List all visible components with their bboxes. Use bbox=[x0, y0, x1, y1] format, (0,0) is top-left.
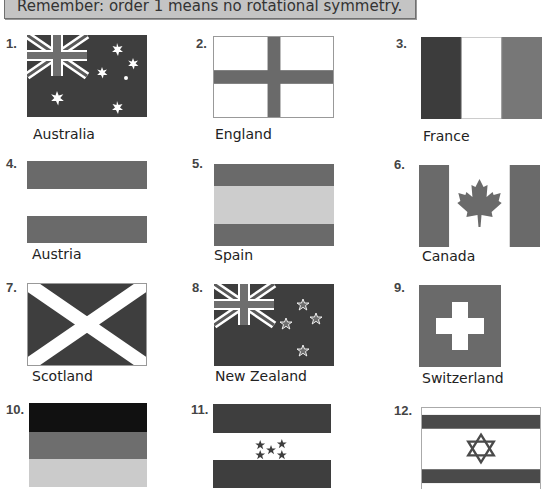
flag-label: Scotland bbox=[32, 368, 93, 384]
australia-flag bbox=[27, 35, 147, 117]
item-number: 11. bbox=[191, 402, 208, 417]
germany-flag bbox=[29, 403, 147, 487]
item-number: 3. bbox=[396, 36, 407, 51]
item-number: 6. bbox=[394, 157, 405, 172]
austria-flag bbox=[27, 161, 147, 243]
item-number: 8. bbox=[192, 280, 203, 295]
flag-label: Canada bbox=[422, 248, 475, 264]
item-number: 2. bbox=[196, 36, 207, 51]
item-number: 9. bbox=[394, 280, 405, 295]
switzerland-flag bbox=[419, 285, 501, 367]
flag-label: Austria bbox=[32, 246, 81, 262]
flag-label: England bbox=[215, 126, 272, 142]
instruction-box: Remember: order 1 means no rotational sy… bbox=[4, 0, 416, 19]
flag-label: New Zealand bbox=[215, 368, 307, 384]
france-flag bbox=[421, 37, 542, 119]
flag-label: Switzerland bbox=[422, 370, 504, 386]
item-number: 10. bbox=[6, 402, 24, 417]
flag-label: Australia bbox=[33, 126, 95, 142]
item-number: 7. bbox=[6, 280, 17, 295]
item-number: 1. bbox=[6, 36, 17, 51]
instruction-text: Remember: order 1 means no rotational sy… bbox=[17, 0, 402, 15]
item-number: 5. bbox=[192, 156, 203, 171]
israel-flag bbox=[421, 407, 541, 489]
item-number: 12. bbox=[394, 403, 412, 418]
flag-label: France bbox=[423, 128, 470, 144]
flag-label: Spain bbox=[214, 247, 253, 263]
spain-flag bbox=[214, 164, 334, 246]
canada-flag bbox=[419, 165, 540, 247]
honduras-flag bbox=[213, 404, 331, 488]
new-zealand-flag bbox=[214, 284, 334, 366]
england-flag bbox=[213, 36, 334, 118]
scotland-flag bbox=[27, 283, 147, 366]
item-number: 4. bbox=[6, 156, 17, 171]
